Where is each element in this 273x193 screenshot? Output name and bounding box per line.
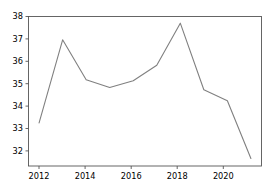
line-chart: 32 33 34 35 36 37 38 2012 2014 2016 2018… — [0, 0, 273, 193]
xtick-label-2012: 2012 — [29, 171, 50, 181]
xtick-label-2018: 2018 — [167, 171, 188, 181]
figure-canvas: 32 33 34 35 36 37 38 2012 2014 2016 2018… — [0, 0, 273, 193]
ytick-label-34: 34 — [13, 101, 23, 111]
xtick-label-2014: 2014 — [75, 171, 96, 181]
ytick-label-38: 38 — [13, 11, 23, 21]
ytick-label-37: 37 — [13, 34, 23, 44]
xtick-label-2016: 2016 — [121, 171, 142, 181]
ytick-label-32: 32 — [13, 146, 23, 156]
axes-background — [29, 17, 262, 167]
ytick-label-35: 35 — [13, 79, 23, 89]
ytick-label-33: 33 — [13, 123, 23, 133]
ytick-label-36: 36 — [13, 56, 23, 66]
xtick-label-2020: 2020 — [213, 171, 234, 181]
